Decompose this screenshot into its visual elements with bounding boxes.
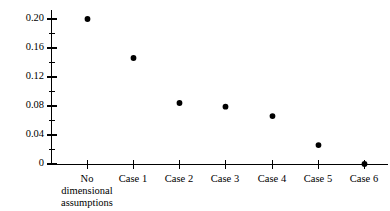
y-tick-label-0: 0 (39, 157, 44, 168)
data-point-no-dimensional-assumptions (85, 16, 91, 22)
y-tick-label-0.16: 0.16 (26, 41, 44, 52)
y-axis: 0.20 0.16 0.12 0.08 0.04 0 (26, 10, 57, 168)
data-point-case-6 (362, 161, 368, 167)
x-tick-label-case-5: Case 5 (304, 173, 332, 184)
data-point-case-5 (316, 142, 322, 148)
y-tick-label-0.08: 0.08 (26, 99, 44, 110)
scatter-chart: 0.20 0.16 0.12 0.08 0.04 0 No dimensiona… (0, 0, 390, 211)
data-point-case-2 (177, 100, 183, 106)
x-tick-label-no-dim-line2: dimensional (61, 185, 112, 196)
data-point-case-4 (270, 113, 276, 119)
data-point-case-1 (131, 55, 137, 61)
x-tick-label-case-6: Case 6 (350, 173, 378, 184)
chart-canvas: 0.20 0.16 0.12 0.08 0.04 0 No dimensiona… (0, 0, 390, 211)
x-tick-label-case-4: Case 4 (258, 173, 287, 184)
y-tick-label-0.12: 0.12 (26, 70, 44, 81)
data-series (85, 16, 368, 167)
y-tick-label-0.20: 0.20 (26, 12, 44, 23)
x-tick-label-no-dim-line3: assumptions (61, 197, 113, 208)
y-tick-label-0.04: 0.04 (26, 128, 45, 139)
x-tick-label-case-1: Case 1 (119, 173, 147, 184)
x-tick-label-no-dim-line1: No (81, 173, 94, 184)
x-tick-label-case-2: Case 2 (165, 173, 193, 184)
data-point-case-3 (223, 104, 229, 110)
x-axis: No dimensional assumptions Case 1 Case 2… (52, 160, 389, 208)
x-tick-label-case-3: Case 3 (211, 173, 239, 184)
